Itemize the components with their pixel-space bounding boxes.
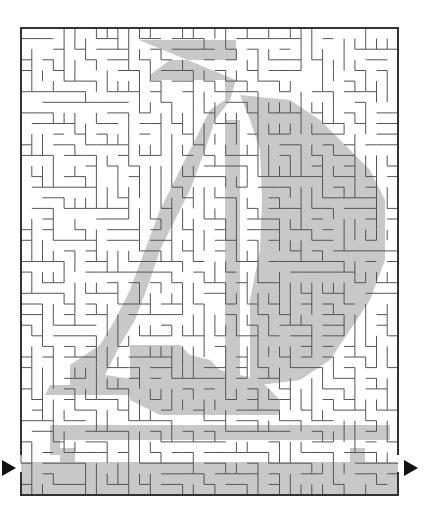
entry-arrow-icon [2, 460, 16, 476]
maze-walls [21, 28, 398, 495]
solution-path-region [225, 120, 240, 400]
maze-board [0, 0, 433, 515]
solution-path-region [45, 40, 236, 395]
exit-arrow-icon [404, 460, 418, 476]
solution-path-region [21, 448, 398, 495]
